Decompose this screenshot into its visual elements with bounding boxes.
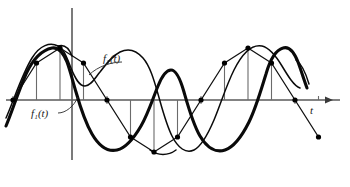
label-t-axis: t	[310, 105, 313, 116]
sample-point	[198, 97, 203, 102]
sample-point	[222, 60, 227, 65]
sample-point	[316, 134, 321, 139]
sample-point	[104, 97, 109, 102]
sample-point	[269, 60, 274, 65]
waveform-canvas	[0, 0, 350, 187]
label-t-axis-text: t	[310, 104, 313, 116]
sample-point	[10, 97, 15, 102]
sample-point	[292, 97, 297, 102]
sample-point	[151, 149, 156, 154]
sample-point	[34, 60, 39, 65]
sample-point	[128, 134, 133, 139]
sample-point	[57, 45, 62, 50]
label-f2: f₂(t)	[103, 53, 120, 64]
label-f1-text: f₁(t)	[31, 107, 48, 119]
label-f1: f₁(t)	[31, 108, 48, 119]
sampling-waveform-figure: f₂(t) f₁(t) t	[0, 0, 350, 187]
sample-point	[245, 45, 250, 50]
t-axis-arrow-icon	[325, 97, 333, 104]
sample-point	[81, 60, 86, 65]
annotation-leaders-group	[58, 62, 122, 113]
sample-point	[175, 134, 180, 139]
label-f2-text: f₂(t)	[103, 52, 120, 64]
